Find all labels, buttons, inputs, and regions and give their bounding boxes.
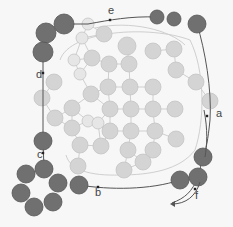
dark-node — [54, 14, 74, 34]
dark-node — [25, 198, 43, 216]
pale-node — [74, 68, 86, 80]
light-node — [100, 79, 116, 95]
light-node — [34, 90, 50, 106]
light-node — [168, 131, 184, 147]
light-node — [145, 101, 161, 117]
label-f: f — [195, 189, 199, 201]
light-node — [70, 158, 86, 174]
dark-node — [167, 12, 181, 26]
pale-node — [92, 117, 104, 129]
light-node — [123, 123, 139, 139]
dark-node — [70, 176, 88, 194]
dark-node — [189, 168, 207, 186]
path-marker — [109, 19, 111, 21]
light-node — [188, 74, 204, 90]
light-node — [64, 120, 80, 136]
label-a: a — [216, 107, 223, 119]
light-node — [166, 41, 182, 57]
light-node — [121, 56, 137, 72]
light-node — [168, 62, 184, 78]
light-node — [93, 138, 109, 154]
dark-node — [12, 184, 30, 202]
dark-node — [171, 171, 189, 189]
light-node — [120, 142, 136, 158]
light-node — [145, 79, 161, 95]
light-node — [83, 86, 99, 102]
light-node — [72, 137, 88, 153]
path-marker — [206, 115, 208, 117]
label-b: b — [95, 186, 101, 198]
pale-node — [76, 32, 88, 44]
arrow-head-icon — [170, 201, 175, 207]
pale-node — [68, 54, 80, 66]
light-node — [96, 26, 112, 42]
label-c: c — [37, 148, 43, 160]
dark-node — [36, 23, 56, 43]
network-diagram: abcdef — [0, 0, 233, 227]
light-node — [145, 43, 161, 59]
dark-node — [150, 10, 164, 24]
light-node — [64, 100, 80, 116]
light-node — [101, 56, 117, 72]
dark-node — [194, 148, 212, 166]
light-node — [46, 74, 62, 90]
dark-node — [33, 42, 53, 62]
light-node — [116, 162, 132, 178]
dark-node — [17, 165, 35, 183]
light-node — [47, 110, 63, 126]
dark-node — [188, 15, 206, 33]
dark-node — [35, 160, 53, 178]
light-node — [122, 79, 138, 95]
light-node — [167, 101, 183, 117]
dark-node — [44, 193, 62, 211]
light-node — [123, 101, 139, 117]
light-node — [147, 123, 163, 139]
light-node — [102, 123, 118, 139]
path-marker — [42, 72, 44, 74]
dark-node — [49, 174, 67, 192]
diagram-canvas: abcdef — [0, 0, 233, 227]
light-node — [118, 37, 136, 55]
light-node — [84, 50, 100, 66]
light-node — [102, 101, 118, 117]
label-e: e — [108, 4, 114, 16]
label-d: d — [36, 68, 42, 80]
light-node — [135, 154, 151, 170]
